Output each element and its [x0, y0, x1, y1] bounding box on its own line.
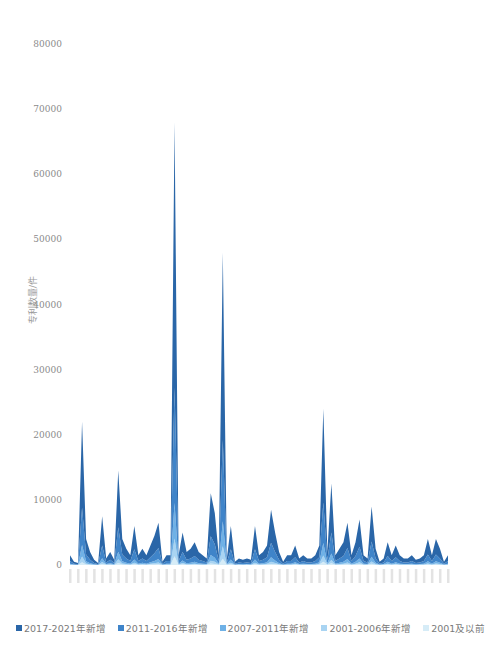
x-tick-label [109, 569, 112, 583]
x-tick-label [141, 569, 144, 583]
x-tick-label [359, 569, 362, 583]
x-tick-label [286, 569, 289, 583]
x-tick-label [182, 569, 185, 583]
x-tick-label [431, 569, 434, 583]
x-tick-label [310, 569, 313, 583]
x-tick-label [85, 569, 88, 583]
x-tick-label [125, 569, 128, 583]
legend-swatch-icon [16, 625, 22, 631]
x-tick-label [262, 569, 265, 583]
x-tick-label [214, 569, 217, 583]
x-tick-label [198, 569, 201, 583]
x-tick-label [318, 569, 321, 583]
x-tick-label [77, 569, 80, 583]
legend-swatch-icon [321, 625, 327, 631]
plot-area [70, 122, 448, 565]
x-tick-label [415, 569, 418, 583]
y-tick-label: 50000 [33, 234, 62, 244]
x-tick-label [222, 569, 225, 583]
legend-item: 2001及以前 [423, 621, 485, 635]
legend-swatch-icon [220, 625, 226, 631]
legend-swatch-icon [423, 625, 429, 631]
x-tick-label [157, 569, 160, 583]
y-tick-label: 70000 [33, 104, 62, 114]
legend-label: 2001及以前 [431, 621, 485, 635]
x-tick-label [367, 569, 370, 583]
y-tick-label: 20000 [33, 430, 62, 440]
x-tick-label [246, 569, 249, 583]
area-series [70, 388, 448, 565]
x-tick-label [391, 569, 394, 583]
legend-label: 2017-2021年新增 [24, 621, 106, 635]
x-tick-label [423, 569, 426, 583]
y-tick-label: 60000 [33, 169, 62, 179]
area-series [70, 122, 448, 564]
x-tick-label [407, 569, 410, 583]
x-tick-label [174, 569, 177, 583]
x-tick-label [206, 569, 209, 583]
x-tick-label [93, 569, 96, 583]
x-tick-label [342, 569, 345, 583]
x-tick-label [230, 569, 233, 583]
legend-swatch-icon [118, 625, 124, 631]
x-tick-label [69, 569, 72, 583]
x-tick-label [190, 569, 193, 583]
x-tick-label [334, 569, 337, 583]
x-tick-label [375, 569, 378, 583]
legend: 2017-2021年新增2011-2016年新增2007-2011年新增2001… [16, 621, 485, 635]
legend-label: 2011-2016年新增 [126, 621, 208, 635]
x-tick-label [166, 569, 169, 583]
legend-label: 2001-2006年新增 [329, 621, 411, 635]
y-tick-label: 30000 [33, 365, 62, 375]
legend-label: 2007-2011年新增 [228, 621, 310, 635]
x-tick-label [254, 569, 257, 583]
x-tick-label [302, 569, 305, 583]
x-tick-label [149, 569, 152, 583]
legend-item: 2007-2011年新增 [220, 621, 310, 635]
x-tick-label [383, 569, 386, 583]
y-tick-label: 80000 [33, 39, 62, 49]
x-tick-label [238, 569, 241, 583]
y-tick-label: 0 [56, 560, 62, 570]
x-tick-label [439, 569, 442, 583]
x-axis-labels [69, 569, 450, 583]
x-tick-label [117, 569, 120, 583]
x-tick-label [133, 569, 136, 583]
legend-item: 2011-2016年新增 [118, 621, 208, 635]
x-tick-label [294, 569, 297, 583]
x-tick-label [270, 569, 273, 583]
legend-item: 2001-2006年新增 [321, 621, 411, 635]
x-tick-label [101, 569, 104, 583]
x-tick-label [399, 569, 402, 583]
legend-item: 2017-2021年新增 [16, 621, 106, 635]
y-tick-label: 10000 [33, 495, 62, 505]
x-tick-label [278, 569, 281, 583]
x-tick-label [447, 569, 450, 583]
y-axis-label: 专利数量/件 [27, 276, 38, 324]
x-tick-label [326, 569, 329, 583]
x-tick-label [350, 569, 353, 583]
